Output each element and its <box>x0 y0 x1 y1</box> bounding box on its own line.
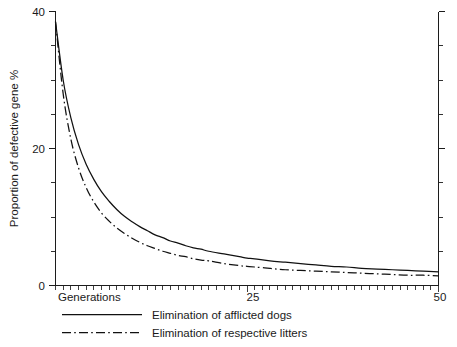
y-tick-label-0: 0 <box>39 280 45 292</box>
legend-label-afflicted-dogs: Elimination of afflicted dogs <box>152 309 292 321</box>
y-tick-label-20: 20 <box>32 143 45 155</box>
legend-label-respective-litters: Elimination of respective litters <box>152 327 308 339</box>
y-axis-title: Proportion of defective gene % <box>8 70 20 227</box>
y-tick-label-40: 40 <box>32 6 45 18</box>
x-tick-label-25: 25 <box>247 291 260 303</box>
chart-svg: 40 20 0 Generations 25 50 Proportion of … <box>0 0 457 347</box>
x-axis-origin-label: Generations <box>58 291 121 303</box>
x-tick-label-50: 50 <box>434 291 447 303</box>
chart-figure: 40 20 0 Generations 25 50 Proportion of … <box>0 0 457 347</box>
